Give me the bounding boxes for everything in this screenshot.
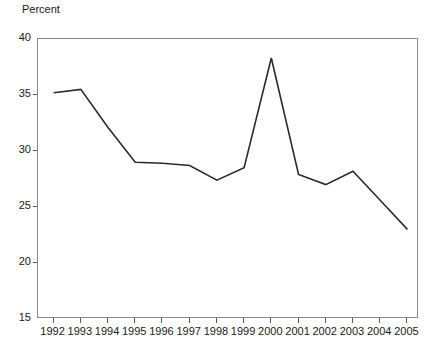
x-tick-mark — [325, 318, 326, 323]
x-tick-mark — [80, 318, 81, 323]
y-tick-label: 40 — [5, 32, 31, 43]
x-tick-mark — [53, 318, 54, 323]
x-tick-mark — [270, 318, 271, 323]
plot-area — [37, 38, 418, 318]
data-series-line — [54, 58, 408, 229]
y-tick-label: 20 — [5, 256, 31, 267]
y-tick-label: 15 — [5, 312, 31, 323]
line-chart-svg — [38, 39, 419, 319]
y-tick-label: 35 — [5, 88, 31, 99]
x-tick-mark — [406, 318, 407, 323]
y-tick-label: 25 — [5, 200, 31, 211]
x-tick-label: 2005 — [389, 325, 423, 337]
x-tick-mark — [189, 318, 190, 323]
x-tick-mark — [298, 318, 299, 323]
y-axis-tick-labels: 152025303540 — [3, 0, 31, 342]
chart-figure: Percent 152025303540 1992199319941995199… — [0, 0, 432, 342]
x-tick-mark — [379, 318, 380, 323]
x-tick-mark — [216, 318, 217, 323]
x-tick-mark — [134, 318, 135, 323]
x-tick-mark — [107, 318, 108, 323]
x-tick-mark — [161, 318, 162, 323]
x-tick-mark — [352, 318, 353, 323]
y-tick-label: 30 — [5, 144, 31, 155]
x-tick-mark — [243, 318, 244, 323]
